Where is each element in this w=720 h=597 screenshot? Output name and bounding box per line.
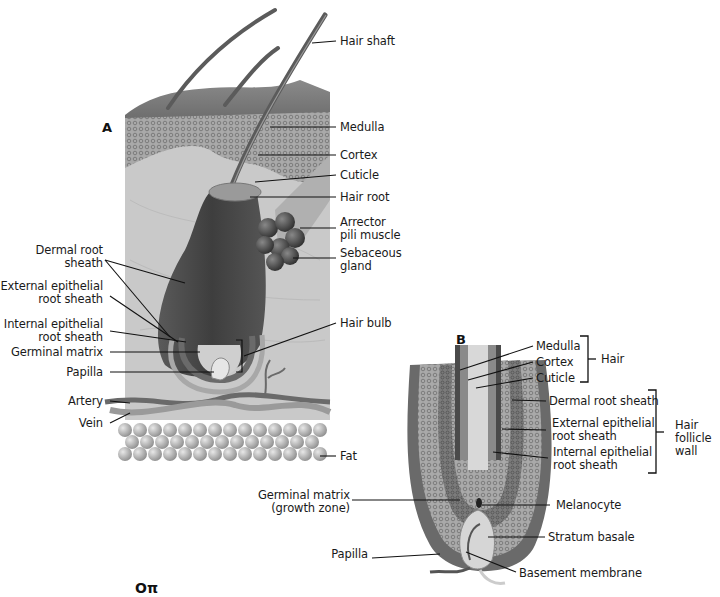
panel-a-block xyxy=(105,10,336,461)
fat-globule xyxy=(133,423,147,437)
label-artery: Artery xyxy=(68,395,103,408)
fat-globule xyxy=(313,447,327,461)
fat-globule xyxy=(193,423,207,437)
fat-globule xyxy=(238,423,252,437)
panel-b-letter: B xyxy=(456,332,466,347)
label-dermal-root-sheath-a: Dermal root sheath xyxy=(35,244,103,270)
label-hair-follicle-wall: Hair follicle wall xyxy=(675,419,711,458)
melanocyte-cell xyxy=(476,498,482,508)
fat-globule xyxy=(268,447,282,461)
panel-a-letter: A xyxy=(102,120,112,135)
label-internal-epithelial-a: Internal epithelial root sheath xyxy=(4,318,103,344)
label-medulla-b: Medulla xyxy=(536,340,580,353)
fat-globule xyxy=(238,447,252,461)
label-melanocyte: Melanocyte xyxy=(556,499,621,512)
label-cuticle-a: Cuticle xyxy=(340,169,379,182)
fat-globule xyxy=(178,423,192,437)
fat-globule xyxy=(163,423,177,437)
fat-globule xyxy=(185,435,199,449)
fat-globule xyxy=(155,435,169,449)
fat-globule xyxy=(125,435,139,449)
fat-globule xyxy=(193,447,207,461)
label-cortex-b: Cortex xyxy=(536,356,573,369)
fat-globule xyxy=(148,447,162,461)
hair-bracket xyxy=(580,336,588,382)
fat-globule xyxy=(298,447,312,461)
fat-globule xyxy=(170,435,184,449)
fat-globule xyxy=(305,435,319,449)
fat-globule xyxy=(260,435,274,449)
label-internal-epithelial-b: Internal epithelial root sheath xyxy=(553,446,652,472)
fat-globule xyxy=(208,447,222,461)
fat-globule xyxy=(133,447,147,461)
fat-globule xyxy=(245,435,259,449)
fat-globule xyxy=(283,423,297,437)
label-germinal-matrix-a: Germinal matrix xyxy=(11,346,103,359)
fat-globule xyxy=(215,435,229,449)
fat-globule xyxy=(223,447,237,461)
label-papilla-b: Papilla xyxy=(331,548,368,561)
follicle-opening xyxy=(209,183,261,201)
label-sebaceous-gland: Sebaceous gland xyxy=(340,247,402,273)
fat-globule xyxy=(200,435,214,449)
fat-globule xyxy=(118,447,132,461)
label-vein: Vein xyxy=(79,417,103,430)
key-icon: Oπ xyxy=(135,580,158,596)
fat-globule xyxy=(290,435,304,449)
fat-globule xyxy=(223,423,237,437)
label-cuticle-b: Cuticle xyxy=(536,372,575,385)
fat-globule xyxy=(283,447,297,461)
fat-globule xyxy=(208,423,222,437)
label-germinal-matrix-b: Germinal matrix (growth zone) xyxy=(258,489,350,515)
papilla-a xyxy=(211,358,229,380)
label-cortex-a: Cortex xyxy=(340,149,377,162)
fat-globule xyxy=(163,447,177,461)
papilla-vessel-out-2 xyxy=(480,570,505,583)
cuticle-b-right xyxy=(496,345,501,460)
fat-globule xyxy=(178,447,192,461)
fat-globule xyxy=(140,435,154,449)
label-fat: Fat xyxy=(340,450,357,463)
label-arrector-pili: Arrector pili muscle xyxy=(340,216,401,242)
fat-globule xyxy=(253,447,267,461)
label-external-epithelial-a: External epithelial root sheath xyxy=(0,280,103,306)
fat-tissue xyxy=(118,423,327,461)
fat-globule xyxy=(275,435,289,449)
label-external-epithelial-b: External epithelial root sheath xyxy=(552,417,655,443)
cuticle-b-left xyxy=(455,345,460,460)
fat-globule xyxy=(230,435,244,449)
label-papilla-a: Papilla xyxy=(66,366,103,379)
label-hair-bulb: Hair bulb xyxy=(340,317,391,330)
label-hair-shaft: Hair shaft xyxy=(340,35,395,48)
fat-globule xyxy=(118,423,132,437)
label-dermal-root-sheath-b: Dermal root sheath xyxy=(549,395,659,408)
fat-globule xyxy=(253,423,267,437)
label-hair-root: Hair root xyxy=(340,191,389,204)
label-hair-group: Hair xyxy=(601,353,624,366)
label-medulla-a: Medulla xyxy=(340,121,384,134)
fat-globule xyxy=(313,423,327,437)
fat-globule xyxy=(268,423,282,437)
fat-globule xyxy=(298,423,312,437)
label-basement-membrane: Basement membrane xyxy=(519,567,642,580)
fat-globule xyxy=(148,423,162,437)
label-stratum-basale: Stratum basale xyxy=(548,531,635,544)
